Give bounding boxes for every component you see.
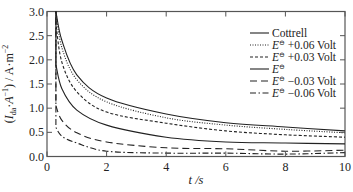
x-tick-label: 4 <box>163 160 169 174</box>
x-tick-label: 6 <box>223 160 229 174</box>
y-tick-label: 0.0 <box>29 150 44 164</box>
legend-label: E⊖ <box>271 63 285 75</box>
y-tick-label: 0.5 <box>29 125 44 139</box>
legend-label: E⊖ +0.06 Volt <box>271 39 337 51</box>
y-tick-label: 2.0 <box>29 53 44 67</box>
y-tick-label: 1.0 <box>29 101 44 115</box>
legend-label: E⊖ −0.06 Volt <box>271 87 337 99</box>
y-axis-title: (Ida·A−1) / A·m−2 <box>1 45 18 124</box>
x-tick-label: 0 <box>44 160 50 174</box>
y-tick-label: 3.0 <box>29 5 44 19</box>
y-tick-label: 2.5 <box>29 29 44 43</box>
x-axis-title: t /s <box>189 173 204 187</box>
legend-label: E⊖ +0.03 Volt <box>271 51 337 63</box>
x-tick-label: 8 <box>282 160 288 174</box>
legend-label: Cottrell <box>272 27 307 39</box>
y-tick-label: 1.5 <box>29 77 44 91</box>
x-tick-label: 10 <box>339 160 351 174</box>
series-line <box>56 7 345 133</box>
series-line <box>56 7 345 131</box>
chart: 02468100.00.51.01.52.02.53.0 CottrellE⊖ … <box>0 0 353 192</box>
legend-label: E⊖ −0.03 Volt <box>271 75 337 87</box>
x-tick-label: 2 <box>104 160 110 174</box>
legend: CottrellE⊖ +0.06 VoltE⊖ +0.03 VoltE⊖E⊖ −… <box>250 27 337 99</box>
